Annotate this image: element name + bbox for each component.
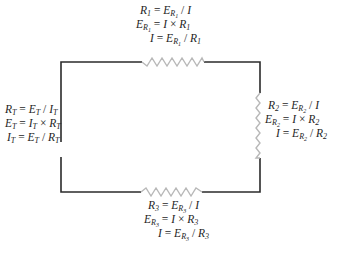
total-equations: RT = ET / IT ET = IT × RT IT = ET / RT: [5, 102, 61, 144]
r1-eq-resistance: R1 = ER1 / I: [140, 3, 201, 17]
r2-eq-current: I = ER2 / R2: [268, 126, 327, 140]
resistor-r1-symbol: [142, 58, 204, 66]
total-eq-voltage: ET = IT × RT: [5, 116, 61, 130]
r3-eq-voltage: ER3 = I × R3: [144, 212, 209, 226]
r3-eq-current: I = ER3 / R3: [148, 226, 209, 240]
r2-equations: R2 = ER2 / I ER2 = I × R2 I = ER2 / R2: [268, 98, 327, 140]
resistors: [141, 58, 260, 196]
wire-bottom-left: [61, 157, 141, 192]
wires: [61, 62, 260, 192]
r1-eq-voltage: ER1 = I × R1: [136, 17, 201, 31]
wire-top-left: [61, 62, 142, 142]
r1-equations: R1 = ER1 / I ER1 = I × R1 I = ER1 / R1: [140, 3, 201, 45]
r2-eq-resistance: R2 = ER2 / I: [268, 98, 327, 112]
total-eq-current: IT = ET / RT: [5, 130, 61, 144]
r3-eq-resistance: R3 = ER3 / I: [148, 198, 209, 212]
total-eq-resistance: RT = ET / IT: [5, 102, 61, 116]
wire-top-right: [204, 62, 260, 93]
resistor-r2-symbol: [256, 93, 260, 158]
r3-equations: R3 = ER3 / I ER3 = I × R3 I = ER3 / R3: [148, 198, 209, 240]
r1-eq-current: I = ER1 / R1: [140, 31, 201, 45]
wire-right-bottom: [202, 158, 260, 192]
resistor-r3-symbol: [141, 188, 202, 196]
r2-eq-voltage: ER2 = I × R2: [265, 112, 327, 126]
